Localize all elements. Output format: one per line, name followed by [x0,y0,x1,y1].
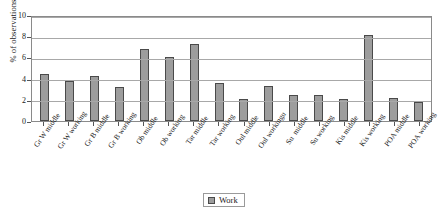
chart-legend: Work [203,193,245,207]
x-label-slot: Kis working [357,126,382,186]
legend-label: Work [219,195,238,205]
bar[interactable] [115,87,124,121]
bar-slot [356,17,381,121]
gridline [32,80,431,81]
y-tick-label: 6 [10,54,26,62]
bars-container [32,17,431,121]
x-label-slot: POA working [407,126,432,186]
gridline [32,38,431,39]
bar[interactable] [414,102,423,121]
bar[interactable] [264,86,273,122]
bar[interactable] [165,57,174,121]
bar-slot [132,17,157,121]
bar-slot [406,17,431,121]
gridline [32,59,431,60]
bar-slot [107,17,132,121]
bar[interactable] [90,76,99,121]
bar-chart: % of observations 0246810 Gr W middleGr … [0,0,443,220]
x-label-slot: Kis middle [332,126,357,186]
bar-slot [207,17,232,121]
bar[interactable] [364,35,373,121]
x-label-slot: Tar middle [181,126,206,186]
x-label-slot: Oul workingu [257,126,282,186]
bar-slot [331,17,356,121]
y-tick-mark [27,37,31,38]
y-tick-mark [27,80,31,81]
x-label-slot: Su working [307,126,332,186]
y-tick-mark [27,101,31,102]
y-tick-label: 0 [10,118,26,126]
bar-slot [256,17,281,121]
bar-slot [306,17,331,121]
x-label-slot: Su middle [282,126,307,186]
bar[interactable] [339,99,348,121]
x-label-slot: Gr B working [106,126,131,186]
bar[interactable] [40,74,49,121]
gridline [32,17,431,18]
bar[interactable] [190,44,199,121]
bar[interactable] [289,95,298,122]
x-label-slot: Tar working [206,126,231,186]
x-label-slot: Ob working [156,126,181,186]
bar-slot [182,17,207,121]
bar-slot [157,17,182,121]
x-label-slot: Gr W middle [31,126,56,186]
y-tick-label: 4 [10,76,26,84]
x-label-slot: POA middle [382,126,407,186]
bar-slot [57,17,82,121]
bar[interactable] [314,95,323,121]
x-label-slot: Gr W working [56,126,81,186]
bar-slot [82,17,107,121]
bar[interactable] [140,49,149,121]
bar-slot [232,17,257,121]
bar-slot [32,17,57,121]
x-label-slot: Oul middle [232,126,257,186]
bar-slot [381,17,406,121]
bar-slot [281,17,306,121]
plot-area [31,16,432,122]
y-tick-mark [27,16,31,17]
gridline [32,101,431,102]
y-tick-mark [27,58,31,59]
x-label-slot: Ob middle [131,126,156,186]
y-tick-label: 2 [10,97,26,105]
legend-swatch-icon [208,197,215,204]
y-tick-label: 10 [10,12,26,20]
x-label-slot: Gr B middle [81,126,106,186]
y-tick-label: 8 [10,33,26,41]
x-axis-labels: Gr W middleGr W workingGr B middleGr B w… [31,126,432,186]
